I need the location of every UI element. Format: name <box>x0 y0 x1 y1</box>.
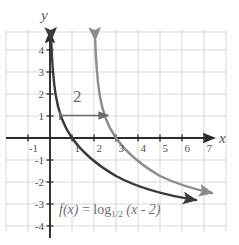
log-operator: log <box>93 202 111 217</box>
y-tick-label-2: 2 <box>28 89 44 100</box>
x-tick-label-7: 7 <box>196 143 212 154</box>
curve-parent-log-half <box>51 40 196 200</box>
log-argument: (x - 2) <box>126 202 160 217</box>
shift-amount-label: 2 <box>73 88 82 105</box>
x-tick-label-3: 3 <box>108 143 124 154</box>
y-tick-label-4: 4 <box>28 45 44 56</box>
x-tick-label-5: 5 <box>152 143 168 154</box>
equals-sign: = <box>82 202 90 217</box>
x-tick-label--1: -1 <box>22 143 38 154</box>
y-tick-label--1: -1 <box>25 155 44 166</box>
y-tick-label-1: 1 <box>28 111 44 122</box>
logarithmic-function-figure: x y -1 1 2 3 4 5 6 7 4 3 2 1 -1 -2 -3 -4… <box>0 0 239 245</box>
axis-label-y: y <box>41 8 48 23</box>
x-tick-label-6: 6 <box>174 143 190 154</box>
x-tick-label-4: 4 <box>130 143 146 154</box>
function-notation: f(x) <box>59 202 78 217</box>
log-base: 1/2 <box>111 209 123 219</box>
x-tick-label-2: 2 <box>86 143 102 154</box>
y-tick-label--3: -3 <box>25 199 44 210</box>
function-equation-label: f(x) = log1/2 (x - 2) <box>59 203 160 219</box>
y-tick-label--2: -2 <box>25 177 44 188</box>
axis-label-x: x <box>219 131 226 146</box>
x-tick-label-1: 1 <box>64 143 80 154</box>
curve-shifted-log-half <box>95 40 212 193</box>
y-tick-label-3: 3 <box>28 67 44 78</box>
y-tick-label--4: -4 <box>25 221 44 232</box>
